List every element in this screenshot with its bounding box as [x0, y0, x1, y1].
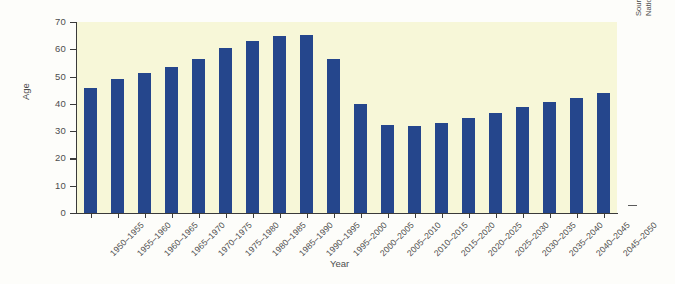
bar: [435, 123, 448, 213]
x-tick-mark: [253, 214, 254, 218]
bar: [462, 118, 475, 213]
x-axis-line: [76, 213, 618, 214]
bar: [192, 59, 205, 213]
x-tick-mark: [307, 214, 308, 218]
y-tick-label: 20: [40, 152, 66, 163]
x-tick-mark: [604, 214, 605, 218]
bar: [408, 126, 421, 213]
bar: [354, 104, 367, 213]
x-tick-mark: [172, 214, 173, 218]
bar: [516, 107, 529, 213]
x-tick-mark: [550, 214, 551, 218]
y-tick-label: 50: [40, 71, 66, 82]
x-tick-mark: [523, 214, 524, 218]
bar: [246, 41, 259, 213]
y-tick-label: 40: [40, 98, 66, 109]
bar: [273, 36, 286, 213]
y-tick-mark: [70, 77, 76, 78]
bar: [111, 79, 124, 213]
y-tick-mark: [70, 158, 76, 159]
bar: [381, 125, 394, 213]
bar: [165, 67, 178, 213]
y-tick-label: 60: [40, 43, 66, 54]
x-tick-mark: [118, 214, 119, 218]
x-axis-title: Year: [330, 258, 349, 269]
bar: [327, 59, 340, 213]
x-tick-mark: [577, 214, 578, 218]
source-note: Source: Compiled by the authors using da…: [634, 0, 654, 16]
x-tick-mark: [91, 214, 92, 218]
x-tick-mark: [199, 214, 200, 218]
x-tick-mark: [334, 214, 335, 218]
bar: [489, 113, 502, 213]
y-tick-mark: [70, 49, 76, 50]
bar: [543, 102, 556, 213]
bar: [300, 35, 313, 213]
y-tick-mark: [70, 104, 76, 105]
y-tick-label: 30: [40, 125, 66, 136]
y-tick-label: 10: [40, 180, 66, 191]
x-tick-mark: [469, 214, 470, 218]
bar: [570, 98, 583, 213]
bar: [219, 48, 232, 213]
x-tick-mark: [442, 214, 443, 218]
x-tick-mark: [415, 214, 416, 218]
y-axis-line: [76, 22, 77, 214]
y-tick-mark: [70, 22, 76, 23]
y-tick-label: 0: [40, 207, 66, 218]
y-tick-label: 70: [40, 16, 66, 27]
bar: [84, 88, 97, 213]
x-tick-mark: [496, 214, 497, 218]
y-tick-mark: [70, 213, 76, 214]
x-tick-mark: [361, 214, 362, 218]
source-note-rule: [628, 205, 637, 206]
bar: [138, 73, 151, 213]
chart-figure: 010203040506070 1950–19551955–19601960–1…: [0, 0, 675, 284]
y-axis-title: Age: [20, 83, 31, 100]
x-tick-mark: [226, 214, 227, 218]
plot-area: [77, 22, 617, 213]
x-tick-mark: [388, 214, 389, 218]
bar: [597, 93, 610, 213]
y-tick-mark: [70, 131, 76, 132]
x-tick-mark: [145, 214, 146, 218]
y-tick-mark: [70, 186, 76, 187]
x-tick-mark: [280, 214, 281, 218]
